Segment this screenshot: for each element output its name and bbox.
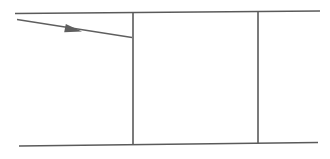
canvas-background — [0, 0, 330, 159]
drawing-canvas — [0, 0, 330, 159]
line-diagram — [0, 0, 330, 159]
